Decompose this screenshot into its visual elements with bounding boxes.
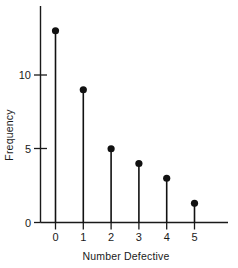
x-tick-label-4: 4: [164, 231, 170, 243]
x-axis-ticks: [56, 223, 195, 230]
data-point-3: [135, 160, 142, 167]
x-axis-tick-labels: 0 1 2 3 4 5: [52, 231, 197, 243]
x-tick-label-5: 5: [191, 231, 197, 243]
x-tick-label-3: 3: [136, 231, 142, 243]
stem-series: [52, 27, 198, 222]
data-point-1: [80, 86, 87, 93]
data-point-5: [191, 200, 198, 207]
y-tick-label-5: 5: [25, 143, 31, 155]
x-axis-title: Number Defective: [82, 250, 169, 262]
x-tick-label-0: 0: [52, 231, 58, 243]
x-tick-label-2: 2: [108, 231, 114, 243]
y-tick-label-10: 10: [19, 69, 31, 81]
chart-container: 0 5 10 0 1 2 3 4 5 Number Defective Freq…: [0, 0, 238, 268]
frequency-stem-chart: 0 5 10 0 1 2 3 4 5 Number Defective Freq…: [0, 0, 238, 268]
data-point-4: [163, 175, 170, 182]
y-tick-label-0: 0: [25, 217, 31, 229]
y-axis-title: Frequency: [3, 109, 15, 161]
data-point-2: [108, 145, 115, 152]
y-axis-tick-labels: 0 5 10: [19, 69, 31, 229]
x-tick-label-1: 1: [80, 231, 86, 243]
data-point-0: [52, 27, 59, 34]
